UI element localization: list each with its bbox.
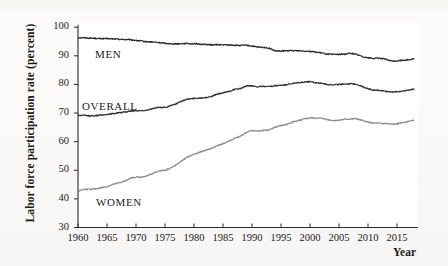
figure-container: Labor force participation rate (percent)… <box>0 0 448 266</box>
y-tick-label: 50 <box>45 163 69 174</box>
y-tick-label: 100 <box>45 20 69 31</box>
y-tick-label: 90 <box>45 49 69 60</box>
y-tick-label: 30 <box>45 221 69 232</box>
y-tick-label: 40 <box>45 192 69 203</box>
y-tick-label: 60 <box>45 135 69 146</box>
data-series-group <box>78 37 414 191</box>
series-annotation-overall: OVERALL <box>82 100 138 112</box>
y-tick-label: 80 <box>45 77 69 88</box>
y-axis-ticks <box>74 27 78 227</box>
x-axis-ticks <box>78 224 397 228</box>
series-line-men <box>78 37 414 61</box>
x-axis-title: Year <box>393 246 416 258</box>
y-axis-title: Labor force participation rate (percent) <box>24 17 36 229</box>
y-tick-label: 70 <box>45 106 69 117</box>
x-tick-label: 2015 <box>377 232 417 243</box>
series-annotation-men: MEN <box>95 48 121 60</box>
series-annotation-women: WOMEN <box>96 196 142 208</box>
series-line-women <box>78 117 414 191</box>
